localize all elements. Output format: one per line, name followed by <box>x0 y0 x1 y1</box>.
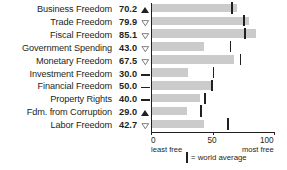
bar <box>152 55 234 64</box>
axis-caption-most-free: most free <box>242 145 274 154</box>
row-label: Labor Freedom <box>0 120 112 132</box>
world-average-tick <box>244 28 246 39</box>
bar <box>152 107 187 116</box>
row-label: Monetary Freedom <box>0 56 112 68</box>
trend-down-icon <box>140 56 151 68</box>
triangle-down-open-icon <box>141 33 150 39</box>
world-average-tick <box>200 105 202 116</box>
axis-caption-least-free: least free <box>151 145 182 154</box>
trend-down-icon <box>140 120 151 132</box>
bar <box>152 4 237 13</box>
axis-tick <box>274 132 275 135</box>
triangle-down-open-icon <box>141 20 150 26</box>
trend-flat-icon <box>140 81 151 93</box>
row-value: 30.0 <box>113 69 137 81</box>
axis-tick <box>151 132 152 135</box>
trend-down-icon <box>140 30 151 42</box>
row-value: 67.5 <box>113 56 137 68</box>
freedom-index-chart: Business Freedom70.2Trade Freedom79.9Fis… <box>0 0 287 170</box>
row-value: 85.1 <box>113 30 137 42</box>
triangle-down-open-icon <box>141 123 150 129</box>
world-average-tick <box>227 118 229 129</box>
triangle-up-filled-icon <box>141 7 149 13</box>
row-label: Investment Freedom <box>0 69 112 81</box>
axis-tick-label: 50 <box>208 136 217 145</box>
trend-flat-icon <box>140 69 151 81</box>
bar <box>152 68 188 77</box>
axis-tick-label: 100 <box>260 136 274 145</box>
world-average-tick <box>231 2 233 13</box>
world-average-tick <box>230 41 232 52</box>
trend-up-icon <box>140 4 151 16</box>
bar <box>152 42 204 51</box>
dash-icon <box>141 99 150 101</box>
row-label: Fdm. from Corruption <box>0 107 112 119</box>
triangle-down-open-icon <box>141 46 150 52</box>
bar <box>152 81 213 90</box>
row-value: 29.0 <box>113 107 137 119</box>
row-label: Financial Freedom <box>0 81 112 93</box>
axis-tick-label: 0 <box>151 136 156 145</box>
world-average-tick <box>211 80 213 91</box>
row-value: 43.0 <box>113 43 137 55</box>
axis-tick <box>213 132 214 135</box>
triangle-down-open-icon <box>141 59 150 65</box>
world-average-tick <box>243 15 245 26</box>
trend-up-icon <box>140 107 151 119</box>
row-label: Business Freedom <box>0 4 112 16</box>
bar <box>152 120 204 129</box>
trend-down-icon <box>140 43 151 55</box>
world-average-tick <box>204 93 206 104</box>
world-average-marker-icon <box>186 152 188 163</box>
row-value: 50.0 <box>113 81 137 93</box>
row-value: 79.9 <box>113 17 137 29</box>
bar <box>152 94 200 103</box>
row-value: 40.0 <box>113 94 137 106</box>
trend-down-icon <box>140 17 151 29</box>
row-label: Trade Freedom <box>0 17 112 29</box>
row-label: Property Rights <box>0 94 112 106</box>
world-average-tick <box>240 54 242 65</box>
legend-label: = world average <box>191 153 247 163</box>
world-average-tick <box>213 67 215 78</box>
bar <box>152 17 249 26</box>
dash-icon <box>141 87 150 89</box>
plot-area <box>151 3 274 132</box>
dash-icon <box>141 74 150 76</box>
bar <box>152 29 256 38</box>
trend-flat-icon <box>140 94 151 106</box>
row-label: Government Spending <box>0 43 112 55</box>
row-label: Fiscal Freedom <box>0 30 112 42</box>
triangle-up-filled-icon <box>141 110 149 116</box>
row-value: 70.2 <box>113 4 137 16</box>
row-value: 42.7 <box>113 120 137 132</box>
